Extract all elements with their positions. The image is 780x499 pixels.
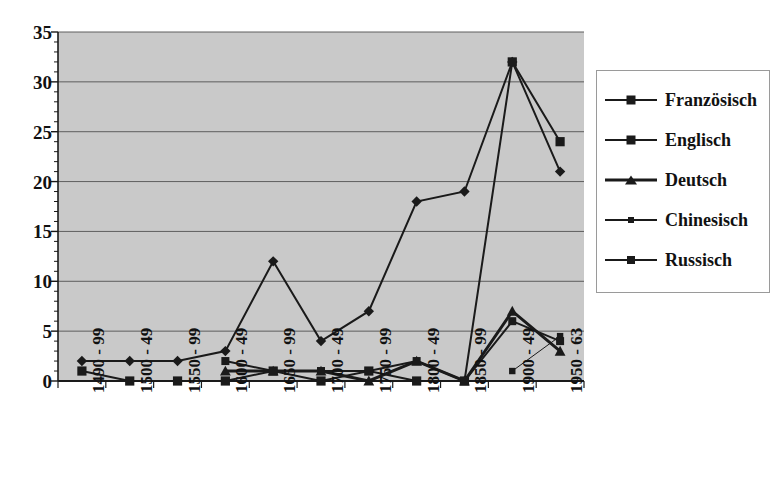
x-tick-label: 1900 - 49 [519,328,539,393]
legend-key-diamond-icon [605,88,657,112]
triangle-marker-icon [625,176,637,185]
square-marker-icon [627,136,636,145]
chart-legend: FranzösischEnglischDeutschChinesischRuss… [596,70,770,293]
legend-item-englisch[interactable]: Englisch [597,125,771,155]
x-tick-label: 1800 - 49 [424,328,444,393]
legend-label: Englisch [665,130,731,151]
legend-label: Russisch [665,250,732,271]
legend-item-deutsch[interactable]: Deutsch [597,165,771,195]
diamond-marker-icon [627,96,636,105]
legend-label: Französisch [665,90,757,111]
legend-item-russisch[interactable]: Russisch [597,245,771,275]
legend-key-smallsquare-icon [605,208,657,232]
x-tick-label: 1600 - 49 [232,328,252,393]
x-tick-label: 1490 - 99 [89,328,109,393]
legend-item-chinesisch[interactable]: Chinesisch [597,205,771,235]
x-tick-label: 1650 - 99 [280,328,300,393]
chart-container: 05101520253035 1490 - 991500 - 491550 - … [0,0,780,499]
x-tick-label: 1700 - 49 [328,328,348,393]
x-tick-label: 1500 - 49 [137,328,157,393]
x-tick-label: 1750 - 99 [376,328,396,393]
legend-item-französisch[interactable]: Französisch [597,85,771,115]
x-tick-label: 1550 - 99 [185,328,205,393]
xsquare-marker-icon [627,256,635,264]
legend-label: Deutsch [665,170,727,191]
smallsquare-marker-icon [628,217,634,223]
x-tick-label: 1850 - 99 [471,328,491,393]
legend-key-triangle-icon [605,168,657,192]
legend-label: Chinesisch [665,210,748,231]
legend-key-square-icon [605,128,657,152]
x-tick-label: 1950 - 63 [567,328,587,393]
legend-key-xsquare-icon [605,248,657,272]
